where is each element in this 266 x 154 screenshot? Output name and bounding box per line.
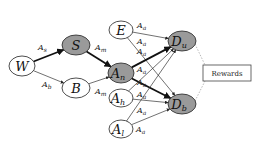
node-Al: Al bbox=[109, 120, 133, 138]
edge-label-Ah-Du: Aa bbox=[136, 78, 147, 88]
rewards-box: Rewards bbox=[203, 65, 251, 81]
edge-label-An-Db: Aa bbox=[136, 65, 147, 75]
node-E: E bbox=[109, 21, 133, 39]
edge-label-S-An: Am bbox=[94, 43, 107, 53]
edge-label-E-Db: Aa bbox=[136, 37, 147, 47]
node-S: S bbox=[62, 35, 90, 55]
reward-graph-diagram: AsAbAmAmAaAaAaAaAaAaAaAa WSBEAnAhAlDuDb … bbox=[0, 0, 266, 154]
edge-label-B-An: Am bbox=[94, 87, 107, 97]
edge-label-Al-Du: Aa bbox=[136, 106, 147, 116]
node-Ah: Ah bbox=[109, 89, 133, 107]
node-label: W bbox=[15, 59, 30, 74]
node-Du: Du bbox=[168, 31, 196, 51]
edge-B-An bbox=[89, 77, 109, 84]
edge-W-B bbox=[33, 71, 63, 83]
rewards-label: Rewards bbox=[212, 70, 243, 78]
dotted-connector-Db bbox=[195, 81, 205, 101]
edge-S-An bbox=[87, 52, 111, 67]
edge-label-An-Du: Aa bbox=[136, 47, 147, 57]
node-B: B bbox=[62, 78, 90, 98]
node-Db: Db bbox=[168, 94, 196, 114]
node-label: B bbox=[70, 81, 81, 96]
edge-label-W-B: Ab bbox=[41, 80, 52, 90]
edge-Ah-Du bbox=[129, 49, 174, 91]
edge-label-E-Du: Aa bbox=[136, 21, 147, 31]
edge-Ah-Db bbox=[133, 99, 168, 102]
edge-label-W-S: As bbox=[37, 43, 47, 53]
edge-label-Al-Db: Aa bbox=[135, 125, 146, 135]
node-W: W bbox=[9, 56, 35, 76]
dotted-connector-Du bbox=[195, 44, 205, 65]
edge-label-Ah-Db: Aa bbox=[136, 90, 147, 100]
node-label: S bbox=[72, 38, 81, 53]
node-An: An bbox=[108, 63, 134, 83]
node-label: E bbox=[115, 23, 126, 38]
